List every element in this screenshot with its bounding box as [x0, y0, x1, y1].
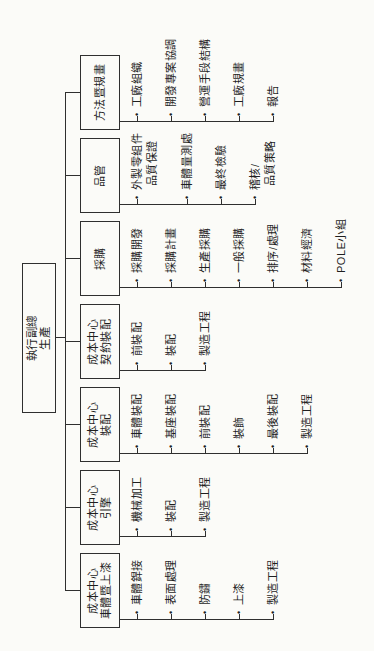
org-item-label: 材料經濟	[301, 227, 313, 273]
org-item-label: 生產採購	[199, 227, 211, 273]
connector-branch-drop-6	[65, 175, 80, 176]
bullet-marker-icon: •	[266, 107, 281, 116]
branch-title-line: 品管	[94, 164, 107, 187]
org-item-label: 外製零組件	[131, 133, 143, 191]
org-item: •採購計畫	[164, 227, 179, 282]
org-item-label: POLE小組	[335, 219, 347, 273]
org-item-label: 裝飾	[233, 416, 245, 439]
branch-node-3: 成本中心裝配	[80, 387, 120, 462]
bullet-marker-icon: •	[198, 522, 213, 531]
org-item-label: 最終檢驗	[215, 144, 227, 190]
org-item-label: 車體裝配	[131, 393, 143, 439]
connector-branch-drop-2	[65, 507, 80, 508]
bullet-marker-icon: •	[232, 605, 247, 614]
branch-title-line: 採購	[94, 247, 107, 270]
connector-hang-line-5	[120, 288, 342, 289]
bullet-marker-icon: •	[164, 273, 179, 282]
org-item: •POLE小組	[334, 219, 349, 282]
org-item-label: 上漆	[233, 582, 245, 605]
org-item: •製造工程	[198, 476, 213, 531]
org-item-label: 最後裝配	[267, 393, 279, 439]
org-item: •營運手段結構	[198, 38, 213, 116]
org-item-label: 基座裝配	[165, 393, 177, 439]
org-item-label: 排序/處理	[267, 223, 279, 273]
org-item: •最後裝配	[266, 393, 281, 448]
org-item-label: 一般採購	[233, 227, 245, 273]
bullet-marker-icon: •	[130, 439, 145, 448]
bullet-marker-icon: •	[164, 107, 179, 116]
bullet-marker-icon: •	[180, 190, 195, 199]
org-item-label: 前裝配	[199, 405, 211, 440]
bullet-marker-icon: •	[198, 107, 213, 116]
branch-title-line: 方法暨規畫	[94, 64, 107, 122]
org-item-label: 工廠組織	[131, 61, 143, 107]
connector-branch-drop-4	[65, 341, 80, 342]
bullet-marker-icon: •	[334, 273, 349, 282]
org-item-label: 前裝配	[131, 322, 143, 357]
bullet-marker-icon: •	[164, 605, 179, 614]
bullet-marker-icon: •	[130, 356, 145, 365]
org-item: •車體裝配	[130, 393, 145, 448]
branch-title-line: 成本中心	[87, 485, 100, 531]
org-item: •前裝配	[198, 405, 213, 449]
branch-title-line: 車體暨上漆	[100, 562, 113, 620]
bullet-marker-icon: •	[232, 439, 247, 448]
bullet-marker-icon: •	[232, 273, 247, 282]
org-chart-page: 執行副總 生產 成本中心車體暨上漆•車體銲接•表面處理•防鏽•上漆•製造工程成本…	[0, 0, 374, 651]
org-item: •表面處理	[164, 559, 179, 614]
org-item-label: 機械加工	[131, 476, 143, 522]
connector-hang-line-2	[120, 537, 206, 538]
org-item-label: 表面處理	[165, 559, 177, 605]
org-item: •車體量測處	[180, 133, 195, 200]
bullet-marker-icon: •	[266, 273, 281, 282]
bullet-marker-icon: •	[164, 439, 179, 448]
org-chart-stage: 執行副總 生產 成本中心車體暨上漆•車體銲接•表面處理•防鏽•上漆•製造工程成本…	[0, 0, 374, 651]
connector-branch-drop-1	[65, 590, 80, 591]
connector-hang-line-3	[120, 454, 308, 455]
branch-node-5: 採購	[80, 221, 120, 296]
branch-title-line: 引擎	[100, 496, 113, 519]
bullet-marker-icon: •	[198, 605, 213, 614]
org-item: •最終檢驗	[214, 144, 229, 199]
org-item: •稽核/品質策略	[248, 140, 278, 199]
branch-title-line: 裝配	[100, 413, 113, 436]
bullet-marker-icon: •	[130, 605, 145, 614]
root-node: 執行副總 生產	[22, 263, 56, 413]
bullet-marker-icon: •	[300, 273, 315, 282]
bullet-marker-icon: •	[198, 356, 213, 365]
bullet-marker-icon: •	[232, 107, 247, 116]
org-item-label: 營運手段結構	[199, 38, 211, 107]
branch-node-7: 方法暨規畫	[80, 55, 120, 130]
org-item-label: 製造工程	[267, 559, 279, 605]
org-item-label: 採購計畫	[165, 227, 177, 273]
root-node-label-line2: 生產	[39, 327, 52, 350]
org-item: •開發專案協調	[164, 38, 179, 116]
connector-hang-line-7	[120, 122, 274, 123]
org-item: •裝配	[164, 499, 179, 531]
org-item: •裝配	[164, 333, 179, 365]
bullet-marker-icon: •	[164, 356, 179, 365]
branch-node-4: 成本中心契約裝配	[80, 304, 120, 379]
org-item: •採購開發	[130, 227, 145, 282]
branch-node-2: 成本中心引擎	[80, 470, 120, 545]
org-item-label: 車體銲接	[131, 559, 143, 605]
root-node-label-line1: 執行副總	[26, 315, 39, 361]
bullet-marker-icon: •	[198, 439, 213, 448]
org-item-label: 製造工程	[199, 476, 211, 522]
org-item-label: 防鏽	[199, 582, 211, 605]
bullet-marker-icon: •	[130, 273, 145, 282]
org-item-label-line2: 品質保證	[145, 133, 160, 187]
org-item: •排序/處理	[266, 223, 281, 282]
org-item: •車體銲接	[130, 559, 145, 614]
org-item: •機械加工	[130, 476, 145, 531]
branch-title-line: 契約裝配	[100, 319, 113, 365]
org-item-label: 採購開發	[131, 227, 143, 273]
org-item: •上漆	[232, 582, 247, 614]
org-item-label: 製造工程	[301, 393, 313, 439]
bullet-marker-icon: •	[266, 605, 281, 614]
org-item: •材料經濟	[300, 227, 315, 282]
org-item: •工廠規畫	[232, 61, 247, 116]
bullet-marker-icon: •	[266, 439, 281, 448]
org-item: •防鏽	[198, 582, 213, 614]
bullet-marker-icon: •	[198, 273, 213, 282]
